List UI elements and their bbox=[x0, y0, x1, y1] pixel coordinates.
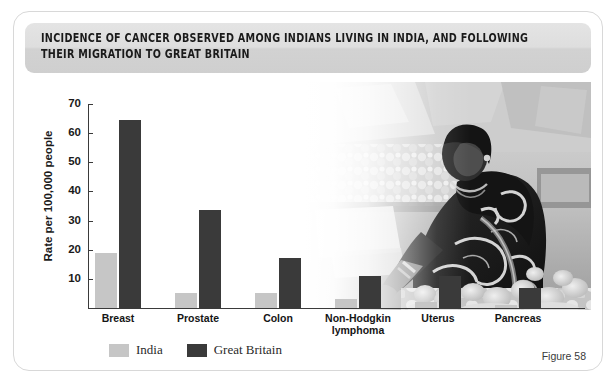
bar-group bbox=[495, 104, 541, 308]
y-tick-label: 50 bbox=[33, 155, 81, 167]
category-label: Uterus bbox=[393, 312, 483, 324]
category-label: Prostate bbox=[153, 312, 243, 324]
figure-card: INCIDENCE OF CANCER OBSERVED AMONG INDIA… bbox=[13, 11, 603, 371]
figure-caption: Figure 58 bbox=[542, 350, 586, 362]
bar-group bbox=[175, 104, 221, 308]
y-tick-label: 30 bbox=[33, 214, 81, 226]
legend-swatch bbox=[187, 344, 207, 357]
y-tick-label: 10 bbox=[33, 272, 81, 284]
bar-group bbox=[415, 104, 461, 308]
chart-plot-area: Rate per 100,000 people 10203040506070 B… bbox=[25, 82, 591, 327]
bar-great-britain bbox=[359, 276, 381, 308]
bar-great-britain bbox=[119, 120, 141, 308]
bar-great-britain bbox=[439, 276, 461, 308]
bar-group-container bbox=[89, 104, 585, 308]
legend-item: India bbox=[109, 342, 163, 358]
y-tick-label: 40 bbox=[33, 184, 81, 196]
bar-india bbox=[335, 299, 357, 308]
legend-label: India bbox=[136, 342, 163, 358]
category-label: Pancreas bbox=[473, 312, 563, 324]
bar-group bbox=[95, 104, 141, 308]
bar-group bbox=[255, 104, 301, 308]
bar-group bbox=[335, 104, 381, 308]
bar-great-britain bbox=[279, 258, 301, 308]
figure-page: INCIDENCE OF CANCER OBSERVED AMONG INDIA… bbox=[0, 0, 616, 385]
bar-india bbox=[495, 305, 517, 308]
bar-great-britain bbox=[519, 288, 541, 308]
bar-india bbox=[415, 302, 437, 308]
title-banner: INCIDENCE OF CANCER OBSERVED AMONG INDIA… bbox=[25, 23, 591, 73]
bar-great-britain bbox=[199, 210, 221, 308]
figure-title: INCIDENCE OF CANCER OBSERVED AMONG INDIA… bbox=[41, 31, 543, 62]
x-axis-line bbox=[88, 308, 585, 309]
legend-label: Great Britain bbox=[214, 342, 282, 358]
y-tick-label: 70 bbox=[33, 97, 81, 109]
bar-india bbox=[95, 253, 117, 308]
category-label: Non-Hodgkin lymphoma bbox=[313, 312, 403, 336]
legend-item: Great Britain bbox=[187, 342, 282, 358]
category-label: Colon bbox=[233, 312, 323, 324]
y-tick-label: 60 bbox=[33, 126, 81, 138]
chart-legend: IndiaGreat Britain bbox=[109, 342, 299, 358]
category-label: Breast bbox=[73, 312, 163, 324]
legend-swatch bbox=[109, 344, 129, 357]
y-tick-label: 20 bbox=[33, 243, 81, 255]
bar-india bbox=[175, 293, 197, 308]
bar-india bbox=[255, 293, 277, 308]
